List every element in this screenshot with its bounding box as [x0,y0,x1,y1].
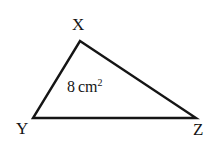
vertex-label-z: Z [193,121,203,138]
area-label: 8cm2 [67,78,103,96]
vertex-label-x: X [72,16,84,33]
area-unit-exponent: 2 [98,77,103,88]
triangle-diagram [0,0,214,142]
vertex-label-y: Y [16,120,28,137]
area-value: 8 [67,78,75,95]
area-unit: cm [78,78,98,95]
triangle-shape [33,41,196,118]
figure-canvas: X Y Z 8cm2 [0,0,214,142]
